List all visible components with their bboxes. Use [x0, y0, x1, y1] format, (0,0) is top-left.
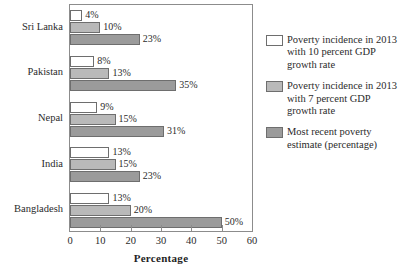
medium-gray-swatch-icon [266, 127, 283, 138]
category-label-bangladesh: Bangladesh [14, 203, 63, 214]
bar-chart: Sri LankaPakistanNepalIndiaBangladesh 4%… [0, 0, 262, 274]
legend-item: Most recent poverty estimate (percentage… [266, 126, 398, 151]
bar-nepal-series-1 [70, 102, 97, 113]
x-tick-label-10: 10 [95, 235, 106, 246]
bar-india-series-2 [70, 159, 116, 170]
legend-item: Poverty incidence in 2013 with 10 percen… [266, 34, 398, 71]
category-label-pakistan: Pakistan [27, 66, 63, 77]
white-swatch-icon [266, 35, 283, 46]
bar-pakistan-series-2 [70, 68, 109, 79]
bar-pakistan-series-3 [70, 80, 176, 91]
light-gray-swatch-icon [266, 81, 283, 92]
x-tick-label-0: 0 [67, 235, 72, 246]
bar-india-series-1 [70, 147, 109, 158]
bar-sri-lanka-series-1 [70, 10, 82, 21]
bar-bangladesh-series-3 [70, 217, 222, 228]
bar-value-label: 13% [112, 146, 130, 157]
x-tick-50 [222, 225, 223, 231]
bar-value-label: 8% [97, 55, 110, 66]
bar-value-label: 35% [179, 79, 197, 90]
bar-sri-lanka-series-3 [70, 34, 140, 45]
legend-item-label: Poverty incidence in 2013 with 10 percen… [287, 34, 398, 71]
x-tick-30 [161, 225, 162, 231]
bar-value-label: 15% [119, 158, 137, 169]
x-tick-label-60: 60 [247, 235, 258, 246]
chart-legend: Poverty incidence in 2013 with 10 percen… [266, 34, 398, 160]
bar-bangladesh-series-2 [70, 205, 131, 216]
bar-value-label: 20% [134, 204, 152, 215]
x-tick-label-50: 50 [216, 235, 227, 246]
bar-bangladesh-series-1 [70, 193, 109, 204]
x-tick-20 [131, 225, 132, 231]
category-axis-labels: Sri LankaPakistanNepalIndiaBangladesh [0, 4, 66, 232]
bar-value-label: 50% [225, 216, 243, 227]
plot-area: 4%10%23%8%13%35%9%15%31%13%15%23%13%20%5… [69, 4, 253, 232]
category-label-sri-lanka: Sri Lanka [22, 21, 63, 32]
bar-value-label: 31% [167, 125, 185, 136]
bars-container: 4%10%23%8%13%35%9%15%31%13%15%23%13%20%5… [70, 5, 252, 231]
x-tick-label-40: 40 [186, 235, 197, 246]
bar-value-label: 23% [143, 170, 161, 181]
category-label-nepal: Nepal [38, 112, 63, 123]
x-axis-title: Percentage [69, 252, 253, 264]
bar-value-label: 10% [103, 21, 121, 32]
x-tick-label-20: 20 [125, 235, 136, 246]
bar-value-label: 13% [112, 192, 130, 203]
bar-value-label: 13% [112, 67, 130, 78]
bar-value-label: 23% [143, 33, 161, 44]
x-tick-40 [191, 225, 192, 231]
legend-item: Poverty incidence in 2013 with 7 percent… [266, 80, 398, 117]
bar-value-label: 15% [119, 113, 137, 124]
bar-nepal-series-2 [70, 114, 116, 125]
bar-value-label: 9% [100, 101, 113, 112]
x-tick-label-30: 30 [156, 235, 167, 246]
category-label-india: India [41, 158, 63, 169]
legend-item-label: Poverty incidence in 2013 with 7 percent… [287, 80, 398, 117]
bar-nepal-series-3 [70, 126, 164, 137]
x-tick-10 [100, 225, 101, 231]
bar-sri-lanka-series-2 [70, 22, 100, 33]
bar-pakistan-series-1 [70, 56, 94, 67]
bar-india-series-3 [70, 171, 140, 182]
bar-value-label: 4% [85, 9, 98, 20]
legend-item-label: Most recent poverty estimate (percentage… [287, 126, 398, 151]
